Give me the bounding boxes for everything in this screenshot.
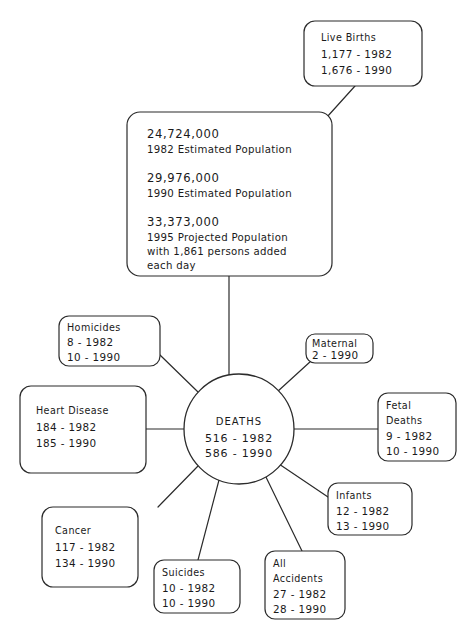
- node-fetal-deaths[interactable]: Fetal Deaths 9 - 1982 10 - 1990: [378, 393, 456, 461]
- node-homicides[interactable]: Homicides 8 - 1982 10 - 1990: [59, 316, 160, 366]
- deaths-hub-line1: 516 - 1982: [205, 432, 273, 445]
- suicides-label: Suicides: [162, 567, 205, 578]
- live-births-line1: 1,177 - 1982: [321, 48, 392, 60]
- node-maternal[interactable]: Maternal 2 - 1990: [306, 334, 373, 363]
- all-accidents-label-1: All: [273, 558, 286, 569]
- cancer-line1: 117 - 1982: [55, 541, 116, 553]
- suicides-line2: 10 - 1990: [162, 597, 216, 609]
- homicides-label: Homicides: [67, 322, 121, 333]
- population-caption-1982: 1982 Estimated Population: [147, 144, 292, 155]
- heart-disease-label: Heart Disease: [36, 405, 109, 416]
- connector-live-births: [327, 86, 355, 117]
- connector-homicides: [160, 355, 198, 392]
- fetal-deaths-line2: 10 - 1990: [386, 445, 440, 457]
- connector-suicides: [198, 480, 219, 560]
- fetal-deaths-line1: 9 - 1982: [386, 430, 433, 442]
- node-infants[interactable]: Infants 12 - 1982 13 - 1990: [328, 483, 412, 535]
- node-heart-disease[interactable]: Heart Disease 184 - 1982 185 - 1990: [20, 386, 146, 473]
- all-accidents-label-2: Accidents: [273, 573, 323, 584]
- infants-line1: 12 - 1982: [336, 505, 390, 517]
- maternal-label: Maternal: [312, 338, 357, 349]
- deaths-hub-line2: 586 - 1990: [205, 447, 273, 460]
- population-caption-added: with 1,861 persons added: [147, 246, 287, 257]
- live-births-line2: 1,676 - 1990: [321, 64, 392, 76]
- maternal-line1: 2 - 1990: [312, 349, 359, 361]
- infants-label: Infants: [336, 490, 372, 501]
- connector-cancer: [158, 466, 198, 507]
- node-cancer[interactable]: Cancer 117 - 1982 134 - 1990: [42, 507, 138, 587]
- node-suicides[interactable]: Suicides 10 - 1982 10 - 1990: [154, 560, 240, 613]
- node-all-accidents[interactable]: All Accidents 27 - 1982 28 - 1990: [265, 551, 345, 619]
- deaths-hub[interactable]: DEATHS 516 - 1982 586 - 1990: [184, 374, 294, 484]
- live-births-label: Live Births: [321, 32, 376, 43]
- fetal-deaths-label-1: Fetal: [386, 400, 411, 411]
- homicides-line1: 8 - 1982: [67, 336, 114, 348]
- vital-statistics-diagram: DEATHS 516 - 1982 586 - 1990 Live Births…: [0, 0, 465, 635]
- population-caption-eachday: each day: [147, 260, 196, 271]
- all-accidents-line2: 28 - 1990: [273, 603, 327, 615]
- infants-line2: 13 - 1990: [336, 520, 390, 532]
- suicides-line1: 10 - 1982: [162, 582, 216, 594]
- diagram-canvas: DEATHS 516 - 1982 586 - 1990 Live Births…: [0, 0, 465, 635]
- homicides-line2: 10 - 1990: [67, 351, 121, 363]
- cancer-label: Cancer: [55, 525, 91, 536]
- heart-disease-line2: 185 - 1990: [36, 437, 97, 449]
- connector-all-accidents: [264, 473, 302, 551]
- all-accidents-line1: 27 - 1982: [273, 588, 327, 600]
- connector-maternal: [277, 361, 311, 392]
- deaths-hub-circle: [184, 374, 294, 484]
- node-population[interactable]: 24,724,000 1982 Estimated Population 29,…: [127, 112, 332, 276]
- population-caption-1990: 1990 Estimated Population: [147, 188, 292, 199]
- deaths-hub-label: DEATHS: [216, 416, 263, 427]
- connector-infants: [279, 464, 328, 497]
- heart-disease-line1: 184 - 1982: [36, 421, 97, 433]
- population-num-1995: 33,373,000: [147, 215, 219, 229]
- node-live-births[interactable]: Live Births 1,177 - 1982 1,676 - 1990: [304, 21, 422, 86]
- fetal-deaths-label-2: Deaths: [386, 415, 422, 426]
- cancer-line2: 134 - 1990: [55, 557, 116, 569]
- population-num-1990: 29,976,000: [147, 171, 219, 185]
- population-caption-1995: 1995 Projected Population: [147, 232, 288, 243]
- population-num-1982: 24,724,000: [147, 127, 219, 141]
